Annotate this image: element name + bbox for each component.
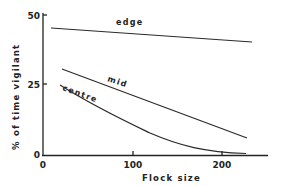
x-axis-label: Flock size: [142, 173, 201, 183]
x-tick-label-200: 200: [213, 160, 232, 170]
y-tick-label-25: 25: [27, 80, 40, 90]
y-axis-label: % of time vigilant: [11, 44, 21, 150]
centre-label: centre: [61, 83, 99, 104]
y-tick-label-50: 50: [27, 11, 40, 21]
edge-label: edge: [116, 18, 144, 27]
y-tick-label-0: 0: [34, 150, 40, 160]
vigilance-chart: 50 25 0 0 100 200 Flock size % of time v…: [0, 0, 281, 186]
x-tick-label-100: 100: [124, 160, 143, 170]
mid-line: [62, 69, 247, 138]
x-tick-label-0: 0: [40, 160, 46, 170]
edge-line: [51, 28, 252, 42]
